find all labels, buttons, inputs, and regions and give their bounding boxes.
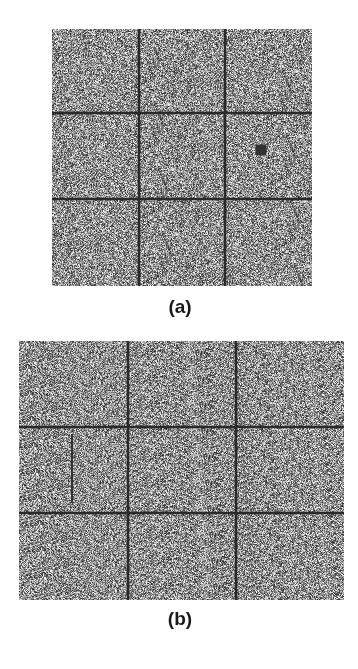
defect-marker	[256, 145, 267, 156]
panel-label-b: (b)	[140, 608, 220, 630]
image-panel-a	[52, 29, 312, 286]
grid-overlay	[52, 29, 312, 286]
grid-overlay	[19, 341, 344, 600]
panel-label-a: (a)	[140, 296, 220, 318]
image-panel-b	[19, 341, 344, 600]
